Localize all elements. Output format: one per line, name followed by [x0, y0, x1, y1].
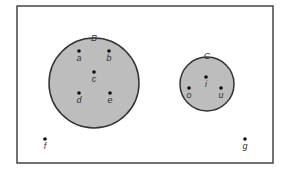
- element-label: o: [186, 90, 191, 100]
- element-f: f: [43, 137, 48, 151]
- element-label: g: [242, 141, 247, 151]
- element-b: b: [106, 49, 111, 63]
- element-a: a: [76, 49, 81, 63]
- venn-diagram: B abcde C iou fg: [0, 0, 287, 174]
- element-label: e: [107, 95, 112, 105]
- element-label: u: [218, 90, 223, 100]
- element-label: b: [106, 53, 111, 63]
- set-c-label: C: [204, 51, 211, 61]
- set-b: B abcde: [49, 33, 139, 128]
- element-label: c: [92, 74, 97, 84]
- outside-elements: fg: [43, 137, 247, 151]
- element-o: o: [186, 86, 191, 100]
- element-label: f: [44, 141, 48, 151]
- element-e: e: [107, 91, 112, 105]
- element-g: g: [242, 137, 247, 151]
- set-c-circle: [180, 57, 234, 111]
- element-label: a: [76, 53, 81, 63]
- element-u: u: [218, 86, 223, 100]
- set-c: C iou: [180, 51, 234, 111]
- set-b-label: B: [91, 33, 97, 43]
